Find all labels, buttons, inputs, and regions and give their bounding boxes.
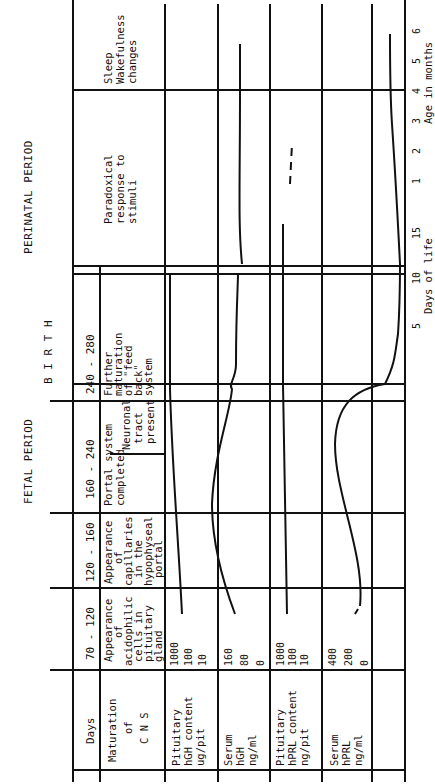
svg-text:Portal system: Portal system [102,424,114,506]
age-in-months-label: Age in months [422,42,434,124]
svg-text:Serum: Serum [222,734,234,766]
svg-text:5: 5 [411,323,422,329]
svg-text:response to: response to [114,154,126,224]
col-70-120: 70 - 120 [84,607,97,660]
svg-text:0: 0 [255,660,266,666]
svg-text:tract: tract [132,412,144,444]
svg-text:10: 10 [299,654,310,666]
svg-text:1000: 1000 [169,642,180,666]
svg-text:Wakefulness: Wakefulness [114,14,126,84]
svg-text:C N S: C N S [138,712,150,744]
svg-text:stimuli: stimuli [126,180,138,224]
fetal-period-label: FETAL PERIOD [22,419,35,504]
svg-text:4: 4 [411,88,422,94]
svg-text:Pituitary: Pituitary [274,709,286,766]
svg-text:completed: completed [114,449,126,506]
svg-text:100: 100 [287,648,298,666]
svg-text:Sleep: Sleep [102,52,114,84]
svg-text:15: 15 [411,227,422,239]
birth-label: B I R T H [42,320,55,384]
svg-text:0: 0 [359,660,370,666]
svg-text:3: 3 [411,118,422,124]
svg-text:changes: changes [126,40,138,84]
svg-text:ng/pit: ng/pit [298,728,310,766]
svg-text:hPRL content: hPRL content [286,690,298,766]
svg-text:Paradoxical: Paradoxical [102,154,114,224]
svg-text:5: 5 [411,58,422,64]
svg-text:gland: gland [152,630,164,662]
fetal-perinatal-diagram: FETAL PERIOD B I R T H PERINATAL PERIOD … [0,0,435,784]
svg-text:6: 6 [411,28,422,34]
col-120-160: 120 - 160 [84,522,97,582]
svg-text:hGH: hGH [234,747,246,766]
svg-text:1000: 1000 [275,642,286,666]
svg-text:Neuronal: Neuronal [120,399,132,450]
svg-text:2: 2 [411,148,422,154]
perinatal-period-label: PERINATAL PERIOD [22,140,35,254]
svg-text:ug/pit: ug/pit [194,728,206,766]
days-of-life-label: Days of life [422,238,434,314]
col-160-240: 160 - 240 [84,439,97,499]
svg-text:1: 1 [411,178,422,184]
svg-text:hGH content: hGH content [182,696,194,766]
svg-text:400: 400 [327,648,338,666]
svg-text:100: 100 [183,648,194,666]
svg-text:ng/ml: ng/ml [246,734,258,766]
svg-text:hPRL: hPRL [340,741,352,766]
col-240-280: 240 - 280 [84,334,97,394]
svg-text:system: system [142,358,154,396]
svg-text:portal: portal [152,540,164,578]
svg-text:80: 80 [239,654,250,666]
svg-text:10: 10 [197,654,208,666]
svg-text:of: of [122,721,134,734]
svg-text:ng/ml: ng/ml [352,734,364,766]
svg-text:10: 10 [411,272,422,284]
cns-label: Maturation [106,699,118,762]
days-header: Days [84,718,97,745]
svg-text:200: 200 [343,648,354,666]
svg-text:present: present [144,400,156,444]
row-label: Pituitary [170,709,182,766]
svg-text:160: 160 [223,648,234,666]
svg-text:Serum: Serum [328,734,340,766]
